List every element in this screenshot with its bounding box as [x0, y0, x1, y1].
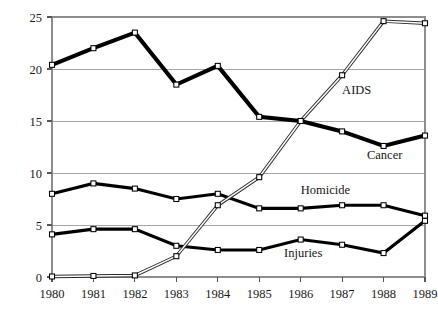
data-point-aids [174, 254, 179, 259]
data-point-homicide [215, 191, 220, 196]
data-point-aids [257, 175, 262, 180]
data-point-injuries [132, 227, 137, 232]
series-label-homicide: Homicide [301, 183, 351, 197]
y-axis-tick-labels: 0510152025 [30, 11, 43, 285]
data-point-cancer [215, 63, 220, 68]
series-label-injuries: Injuries [284, 246, 322, 260]
data-point-injuries [174, 243, 179, 248]
data-point-cancer [174, 82, 179, 87]
data-point-injuries [257, 247, 262, 252]
series-line-injuries [52, 221, 425, 253]
x-axis-tick-label: 1983 [164, 287, 189, 301]
data-point-homicide [257, 206, 262, 211]
data-point-cancer [257, 114, 262, 119]
data-point-homicide [50, 191, 55, 196]
plot-frame [52, 17, 425, 277]
x-axis-tick-label: 1989 [413, 287, 438, 301]
x-axis-tick-label: 1981 [81, 287, 106, 301]
x-axis-tick-label: 1980 [40, 287, 65, 301]
data-point-injuries [91, 227, 96, 232]
data-point-injuries [381, 251, 386, 256]
data-point-cancer [340, 129, 345, 134]
data-point-homicide [340, 203, 345, 208]
x-axis-tick-label: 1984 [205, 287, 231, 301]
data-point-aids [132, 273, 137, 278]
data-point-cancer [132, 30, 137, 35]
data-point-injuries [340, 242, 345, 247]
x-axis-ticks [52, 277, 425, 282]
data-point-injuries [50, 232, 55, 237]
x-axis-tick-label: 1987 [330, 287, 355, 301]
series-annotations-group: AIDSCancerHomicideInjuries [284, 83, 403, 260]
data-point-homicide [132, 186, 137, 191]
line-chart: 0510152025 19801981198219831984198519861… [0, 0, 438, 313]
data-point-aids [340, 73, 345, 78]
data-point-cancer [50, 62, 55, 67]
data-point-homicide [381, 203, 386, 208]
y-axis-tick-label: 15 [30, 115, 43, 129]
data-point-homicide [174, 197, 179, 202]
y-axis-tick-label: 5 [36, 219, 42, 233]
y-axis-tick-label: 0 [36, 271, 42, 285]
x-axis-tick-label: 1982 [122, 287, 147, 301]
y-axis-tick-label: 25 [30, 11, 43, 25]
data-point-aids [50, 274, 55, 279]
data-point-aids [91, 273, 96, 278]
data-point-aids [298, 119, 303, 124]
y-axis-tick-label: 20 [30, 63, 43, 77]
data-point-cancer [91, 46, 96, 51]
series-line-homicide [52, 183, 425, 215]
plot-frame-rect [52, 17, 425, 277]
data-point-aids [423, 21, 428, 26]
data-point-cancer [423, 133, 428, 138]
chart-container: 0510152025 19801981198219831984198519861… [0, 0, 438, 313]
x-axis-tick-label: 1986 [288, 287, 313, 301]
data-point-injuries [215, 247, 220, 252]
data-point-homicide [91, 181, 96, 186]
data-point-aids [381, 19, 386, 24]
data-point-injuries [298, 237, 303, 242]
x-axis-tick-label: 1985 [247, 287, 272, 301]
x-axis-tick-labels: 1980198119821983198419851986198719881989 [40, 287, 438, 301]
series-label-aids: AIDS [342, 83, 371, 97]
data-point-aids [215, 203, 220, 208]
data-point-homicide [298, 206, 303, 211]
y-axis-ticks [47, 17, 52, 277]
gridlines-group [52, 17, 425, 225]
series-label-cancer: Cancer [367, 148, 403, 162]
data-point-homicide [423, 213, 428, 218]
data-point-injuries [423, 218, 428, 223]
y-axis-tick-label: 10 [30, 167, 43, 181]
x-axis-tick-label: 1988 [371, 287, 396, 301]
